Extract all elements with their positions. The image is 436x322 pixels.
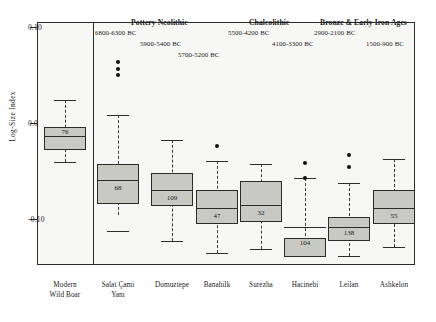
whisker-cap-upper xyxy=(383,159,405,160)
sample-size-label: 104 xyxy=(284,239,326,247)
modern-vs-archaeological-divider xyxy=(93,22,94,265)
period-date-6800-6300: 6800-6300 BC xyxy=(95,29,136,36)
whisker-cap-lower xyxy=(250,249,272,250)
sample-size-label: 55 xyxy=(373,212,415,220)
period-date-5500-4200: 5500-4200 BC xyxy=(228,29,269,36)
y-axis-title: Log-Size Index xyxy=(8,79,17,155)
period-title-chalcolithic: Chalcolithic xyxy=(249,18,289,27)
whisker-cap-lower xyxy=(54,162,76,163)
outlier-point xyxy=(303,161,307,165)
whisker-cap-upper xyxy=(338,183,360,184)
sample-size-label: 47 xyxy=(196,212,238,220)
period-date-5900-5400: 5900-5400 BC xyxy=(140,40,181,47)
median-line xyxy=(373,208,415,209)
whisker-cap-lower xyxy=(161,241,183,242)
whisker-cap-lower xyxy=(206,253,228,254)
median-line xyxy=(196,208,238,209)
outlier-point xyxy=(116,67,120,71)
whisker-cap-lower xyxy=(338,256,360,257)
median-line xyxy=(151,190,193,191)
median-line xyxy=(240,205,282,206)
sample-size-label: 138 xyxy=(328,229,370,237)
boxplot-figure: Log-Size Index 0.10 0.0 -0.10 Pottery Ne… xyxy=(0,0,436,322)
outlier-point xyxy=(347,153,351,157)
outlier-point xyxy=(116,60,120,64)
period-title-pottery-neolithic: Pottery Neolithic xyxy=(131,18,188,27)
x-label-line-2: Yanı xyxy=(84,291,152,301)
period-date-5700-5200: 5700-5200 BC xyxy=(178,51,219,58)
outlier-point xyxy=(116,73,120,77)
whisker-cap-upper xyxy=(54,100,76,101)
whisker-cap-lower xyxy=(383,247,405,248)
period-date-1500-900: 1500-900 BC xyxy=(366,40,404,47)
x-label-ashkelon: Ashkelon xyxy=(362,281,426,291)
whisker-cap-upper xyxy=(161,140,183,141)
median-line xyxy=(97,180,139,181)
median-line xyxy=(44,136,86,137)
whisker-cap-upper xyxy=(250,164,272,165)
outlier-point xyxy=(303,176,307,180)
whisker-cap-lower xyxy=(107,231,129,232)
period-date-2900-2100: 2900-2100 BC xyxy=(314,29,355,36)
whisker-cap-upper xyxy=(206,161,228,162)
period-title-bronze-early-iron-ages: Bronze & Early Iron Ages xyxy=(320,18,407,27)
whisker-cap-upper xyxy=(107,115,129,116)
sample-size-label: 109 xyxy=(151,194,193,202)
period-date-4100-3300: 4100-3300 BC xyxy=(272,40,313,47)
median-line xyxy=(284,227,326,228)
outlier-point xyxy=(347,165,351,169)
outlier-point xyxy=(215,144,219,148)
sample-size-label: 32 xyxy=(240,209,282,217)
median-line xyxy=(328,227,370,228)
sample-size-label: 76 xyxy=(44,128,86,136)
sample-size-label: 68 xyxy=(97,184,139,192)
